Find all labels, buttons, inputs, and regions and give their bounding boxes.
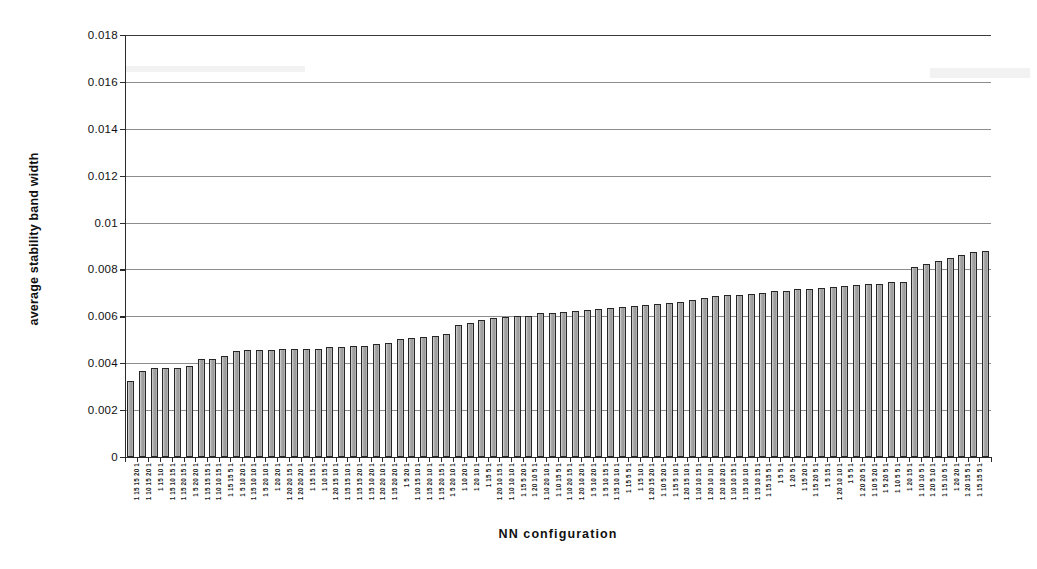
x-category-label: 1 15 15 1: [309, 463, 316, 491]
x-category-label: 1 20 15 10 1: [332, 463, 339, 500]
bar: [198, 359, 205, 457]
bar: [467, 323, 474, 457]
x-tick-mark: [909, 457, 910, 462]
x-tick-mark: [371, 457, 372, 462]
x-tick-mark: [956, 457, 957, 462]
bar: [958, 255, 965, 457]
x-tick-mark: [991, 457, 992, 462]
bar: [455, 325, 462, 457]
y-tick-label: 0.004: [48, 357, 118, 369]
x-category-label: 1 15 10 1: [637, 463, 644, 491]
bar: [806, 289, 813, 457]
x-category-label: 1 20 20 20 1: [297, 463, 304, 500]
x-category-label: 1 15 5 10 1: [672, 463, 679, 497]
x-tick-mark: [148, 457, 149, 462]
bar: [865, 284, 872, 457]
y-tick-label: 0.016: [48, 76, 118, 88]
bar: [350, 346, 357, 457]
x-tick-mark: [921, 457, 922, 462]
bar: [478, 320, 485, 457]
x-tick-mark: [932, 457, 933, 462]
x-category-label: 1 15 20 20 1: [391, 463, 398, 500]
x-category-label: 1 5 20 10 1: [449, 463, 456, 497]
x-tick-mark: [418, 457, 419, 462]
bar: [736, 295, 743, 457]
bar: [853, 285, 860, 457]
x-tick-mark: [172, 457, 173, 462]
bar: [888, 282, 895, 457]
x-category-label: 1 10 15 1: [321, 463, 328, 491]
x-tick-mark: [769, 457, 770, 462]
x-tick-mark: [979, 457, 980, 462]
x-tick-mark: [968, 457, 969, 462]
bar: [420, 337, 427, 457]
bar: [537, 313, 544, 457]
x-category-label: 1 5 10 20 1: [239, 463, 246, 497]
x-tick-mark: [359, 457, 360, 462]
x-category-label: 1 15 15 10 1: [344, 463, 351, 500]
x-tick-mark: [254, 457, 255, 462]
bar: [303, 349, 310, 457]
x-category-label: 1 10 15 5 1: [555, 463, 562, 497]
bar: [151, 368, 158, 457]
x-tick-mark: [605, 457, 606, 462]
x-tick-mark: [230, 457, 231, 462]
bar: [256, 350, 263, 457]
bar: [338, 347, 345, 457]
x-category-label: 1 20 20 15 1: [286, 463, 293, 500]
x-category-label: 1 20 10 20 1: [719, 463, 726, 500]
x-category-label: 1 20 15 1: [906, 463, 913, 491]
x-tick-mark: [675, 457, 676, 462]
x-axis-category-labels: 1 15 15 20 11 10 15 20 11 15 10 11 15 10…: [125, 463, 991, 525]
x-tick-mark: [804, 457, 805, 462]
x-tick-mark: [617, 457, 618, 462]
x-category-label: 1 15 10 10 1: [742, 463, 749, 500]
x-tick-mark: [535, 457, 536, 462]
x-tick-mark: [453, 457, 454, 462]
x-tick-mark: [886, 457, 887, 462]
bar: [701, 298, 708, 457]
x-category-label: 1 10 10 15 1: [730, 463, 737, 500]
x-tick-mark: [687, 457, 688, 462]
x-tick-mark: [265, 457, 266, 462]
x-category-label: 1 15 15 5 1: [976, 463, 983, 497]
x-category-label: 1 15 15 20 1: [133, 463, 140, 500]
x-category-label: 1 15 10 20 1: [368, 463, 375, 500]
bar: [397, 339, 404, 457]
y-axis-tick-labels: 00.0020.0040.0060.0080.010.0120.0140.016…: [48, 35, 118, 457]
bar: [525, 316, 532, 457]
bar: [759, 293, 766, 457]
bar: [315, 349, 322, 457]
bar: [279, 349, 286, 457]
bar: [560, 312, 567, 457]
bar: [911, 267, 918, 457]
x-category-label: 1 5 5 1: [847, 463, 854, 484]
bar: [291, 349, 298, 457]
x-tick-mark: [476, 457, 477, 462]
x-tick-mark: [851, 457, 852, 462]
x-tick-mark: [195, 457, 196, 462]
x-tick-mark: [628, 457, 629, 462]
x-tick-mark: [137, 457, 138, 462]
x-tick-mark: [429, 457, 430, 462]
x-tick-mark: [745, 457, 746, 462]
x-category-label: 1 20 5 1: [789, 463, 796, 487]
bar: [268, 350, 275, 457]
x-tick-mark: [698, 457, 699, 462]
x-tick-mark: [570, 457, 571, 462]
x-tick-mark: [593, 457, 594, 462]
bar: [432, 336, 439, 457]
x-tick-mark: [874, 457, 875, 462]
y-tick-label: 0.002: [48, 404, 118, 416]
x-category-label: 1 5 20 20 1: [192, 463, 199, 497]
bar: [947, 258, 954, 457]
bar: [233, 351, 240, 457]
bar: [490, 318, 497, 457]
bar: [595, 309, 602, 457]
bar: [794, 289, 801, 457]
x-category-label: 1 20 5 10 1: [929, 463, 936, 497]
x-category-label: 1 5 10 20 1: [590, 463, 597, 497]
x-tick-mark: [441, 457, 442, 462]
x-tick-mark: [652, 457, 653, 462]
bar-series: [125, 35, 991, 457]
